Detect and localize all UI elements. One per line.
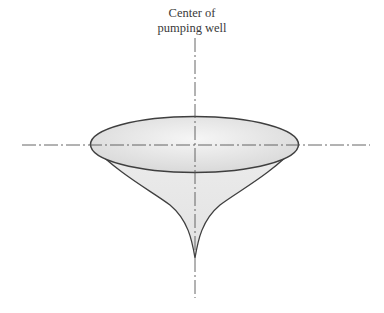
- cone-of-depression-diagram: [0, 0, 384, 313]
- water-table-ellipse: [91, 117, 299, 173]
